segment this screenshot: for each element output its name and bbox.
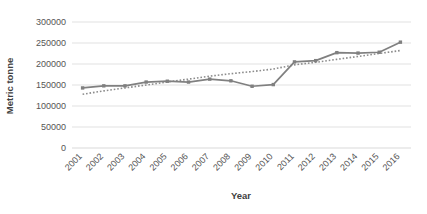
data-point-marker	[314, 59, 317, 62]
data-point-marker	[399, 40, 402, 43]
data-point-marker	[335, 51, 338, 54]
data-point-marker	[187, 80, 190, 83]
data-point-marker	[144, 80, 147, 83]
data-point-marker	[250, 85, 253, 88]
y-tick-label: 300000	[36, 17, 66, 27]
chart-container: 050000100000150000200000250000300000 200…	[0, 0, 427, 214]
y-tick-label: 200000	[36, 59, 66, 69]
y-tick-label: 100000	[36, 101, 66, 111]
y-tick-label: 0	[61, 143, 66, 153]
data-point-marker	[293, 60, 296, 63]
data-point-marker	[81, 86, 84, 89]
line-chart: 050000100000150000200000250000300000 200…	[0, 0, 427, 214]
x-axis-title: Year	[231, 190, 251, 201]
y-tick-label: 250000	[36, 38, 66, 48]
data-point-marker	[356, 51, 359, 54]
y-axis-title: Metric tonne	[4, 58, 15, 114]
y-tick-label: 150000	[36, 80, 66, 90]
data-point-marker	[229, 79, 232, 82]
data-point-marker	[208, 77, 211, 80]
data-point-marker	[378, 51, 381, 54]
data-point-marker	[123, 84, 126, 87]
data-point-marker	[272, 83, 275, 86]
data-point-marker	[166, 80, 169, 83]
y-tick-label: 50000	[41, 122, 66, 132]
data-point-marker	[102, 84, 105, 87]
